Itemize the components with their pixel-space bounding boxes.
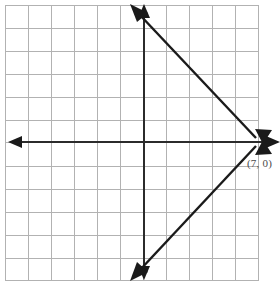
vertex-right-arrowhead-cluster (262, 135, 277, 149)
x-axis-left-arrowhead (8, 136, 22, 148)
graph-svg (0, 0, 280, 284)
vertex-point-label: (7, 0) (247, 157, 272, 169)
coordinate-graph: (7, 0) (0, 0, 280, 284)
